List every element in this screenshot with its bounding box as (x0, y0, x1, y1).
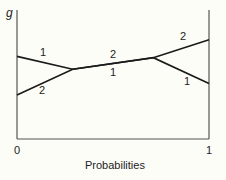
series-1-label-right: 1 (184, 76, 190, 87)
series-2-label-right: 2 (180, 31, 186, 42)
y-axis-label: g (6, 7, 13, 19)
x-axis-title: Probabilities (85, 160, 145, 171)
chart-canvas (0, 0, 226, 180)
series-1-label-left: 1 (40, 47, 46, 58)
series-2-label-middle: 2 (110, 49, 116, 60)
x-tick-max: 1 (206, 145, 212, 156)
x-tick-min: 0 (14, 145, 20, 156)
series-1-label-middle: 1 (110, 67, 116, 78)
series-2-label-left: 2 (39, 85, 45, 96)
